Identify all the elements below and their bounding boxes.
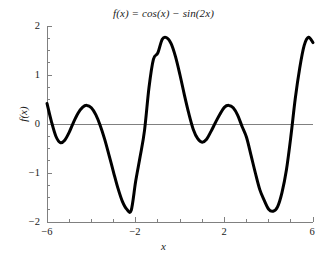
chart-figure: f(x) = cos(x) − sin(2x) f(x) x 2 1 0 −1 …	[0, 0, 327, 260]
plot-area	[0, 0, 327, 260]
function-curve	[47, 37, 313, 212]
